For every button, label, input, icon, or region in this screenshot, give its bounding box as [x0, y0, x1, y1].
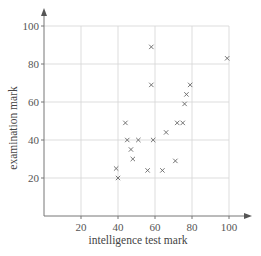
- cross-marker-icon: [175, 121, 179, 125]
- cross-marker-icon: [173, 159, 177, 163]
- y-axis-label: examination mark: [7, 86, 19, 170]
- cross-marker-icon: [164, 130, 168, 134]
- x-tick-label: 60: [150, 221, 162, 233]
- y-tick-label: 80: [28, 58, 40, 70]
- x-axis-arrow-icon: [244, 213, 252, 219]
- x-tick-label: 80: [187, 221, 199, 233]
- y-tick-label: 100: [23, 20, 40, 32]
- data-points: [114, 45, 229, 181]
- cross-marker-icon: [131, 157, 135, 161]
- cross-marker-icon: [149, 45, 153, 49]
- x-tick-label: 100: [221, 221, 238, 233]
- cross-marker-icon: [129, 147, 133, 151]
- x-axis-label: intelligence test mark: [89, 234, 188, 247]
- y-tick-label: 20: [28, 172, 40, 184]
- cross-marker-icon: [181, 121, 185, 125]
- y-axis-arrow-icon: [41, 8, 47, 16]
- x-tick-label: 20: [76, 221, 88, 233]
- y-tick-label: 40: [28, 134, 40, 146]
- gridlines: [44, 26, 229, 216]
- axes: [41, 8, 252, 219]
- x-tick-label: 40: [113, 221, 125, 233]
- scatter-chart: 20406080100 20406080100 intelligence tes…: [0, 0, 261, 256]
- cross-marker-icon: [123, 121, 127, 125]
- cross-marker-icon: [184, 92, 188, 96]
- x-tick-labels: 20406080100: [76, 216, 238, 233]
- y-tick-label: 60: [28, 96, 40, 108]
- y-tick-labels: 20406080100: [23, 20, 45, 184]
- cross-marker-icon: [145, 168, 149, 172]
- cross-marker-icon: [149, 83, 153, 87]
- cross-marker-icon: [160, 168, 164, 172]
